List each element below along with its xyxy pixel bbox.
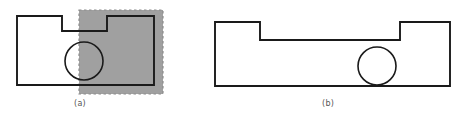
panel-b-group: [215, 22, 450, 86]
circular-hole-b[interactable]: [358, 47, 396, 85]
figure-drawing-canvas: [0, 0, 461, 120]
figure-panel: (a) (b): [0, 0, 461, 120]
figure-caption-a: (a): [74, 99, 86, 108]
figure-caption-b: (b): [322, 99, 334, 108]
panel-a-group: [17, 10, 163, 94]
selection-region-a[interactable]: [79, 10, 163, 94]
part-outline-b[interactable]: [215, 22, 450, 86]
